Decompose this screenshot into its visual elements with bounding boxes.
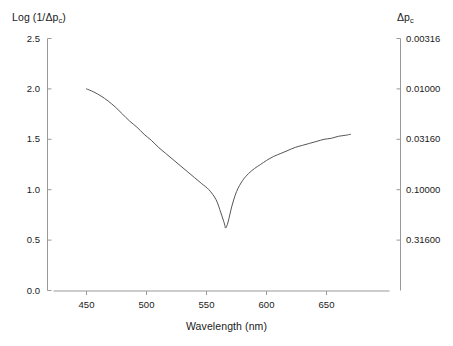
- y-axis-left-tick-label: 0.0: [6, 285, 40, 296]
- y-axis-right-tick-label: 0.00316: [406, 33, 440, 44]
- data-series-group: [87, 89, 351, 228]
- y-axis-left-tick-label: 2.0: [6, 83, 40, 94]
- y-axis-right-tick-label: 0.01000: [406, 83, 440, 94]
- x-axis-tick-label: 650: [302, 299, 352, 310]
- plot-area: [0, 0, 453, 346]
- y-axis-left-tick-label: 2.5: [6, 33, 40, 44]
- y-axis-left-tick-label: 0.5: [6, 234, 40, 245]
- chart-figure: Log (1/Δpc) Δpc Wavelength (nm) 0.00.51.…: [0, 0, 453, 346]
- x-axis-tick-label: 450: [62, 299, 112, 310]
- x-axis-tick-label: 550: [182, 299, 232, 310]
- data-line-spectral-sensitivity: [87, 89, 351, 228]
- x-axis-tick-label: 600: [242, 299, 292, 310]
- y-axis-right-tick-label: 0.31600: [406, 234, 440, 245]
- y-axis-right-tick-label: 0.03160: [406, 133, 440, 144]
- y-axis-right-tick-label: 0.10000: [406, 184, 440, 195]
- axes-group: [48, 39, 401, 296]
- x-axis-tick-label: 500: [122, 299, 172, 310]
- y-axis-left-tick-label: 1.5: [6, 133, 40, 144]
- y-axis-left-tick-label: 1.0: [6, 184, 40, 195]
